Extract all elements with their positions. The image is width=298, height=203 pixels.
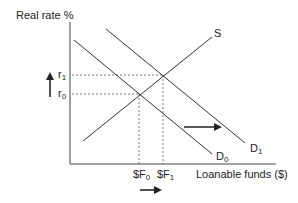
demand-curve-d0 (74, 40, 212, 154)
r1-label: r1 (58, 68, 67, 82)
f1-label: $F1 (157, 168, 175, 182)
d0-label: D0 (216, 150, 229, 164)
r0-label: r0 (58, 87, 67, 101)
f0-label: $F0 (133, 168, 151, 182)
y-axis-label: Real rate % (16, 9, 74, 21)
supply-curve (83, 37, 212, 141)
x-axis-label: Loanable funds ($) (196, 168, 288, 180)
demand-curve-d1 (106, 29, 245, 143)
d1-label: D1 (250, 142, 263, 156)
loanable-funds-diagram: Real rate % Loanable funds ($) r1 r0 $F0… (0, 0, 298, 203)
supply-label: S (214, 27, 221, 39)
